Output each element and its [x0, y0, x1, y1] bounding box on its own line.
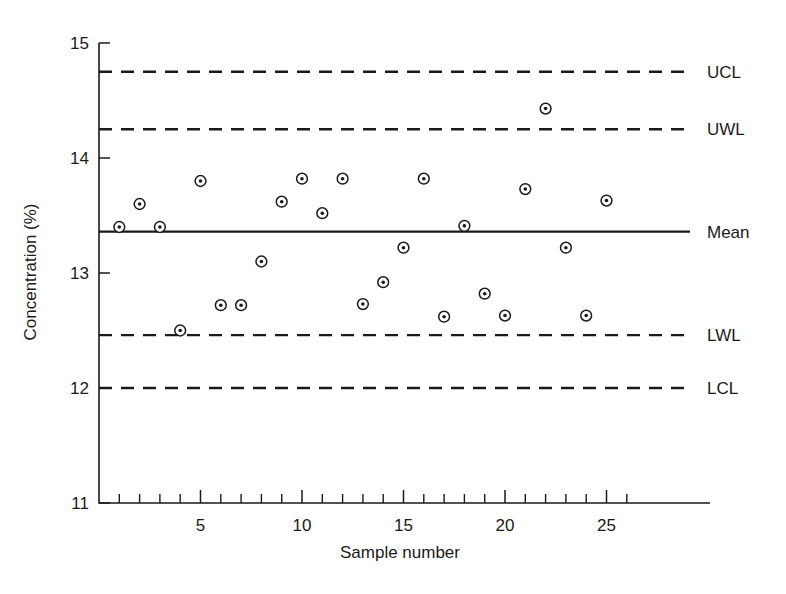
data-point	[236, 300, 247, 311]
control-chart: Concentration (%) Sample number 11121314…	[0, 0, 786, 594]
data-point	[297, 173, 308, 184]
data-point-center	[178, 329, 182, 333]
data-point-center	[503, 314, 507, 318]
x-axis-title: Sample number	[340, 543, 460, 562]
data-point	[114, 222, 125, 233]
reference-label-lwl: LWL	[707, 326, 741, 345]
data-point-center	[341, 177, 345, 181]
reference-label-lcl: LCL	[707, 379, 738, 398]
data-point-center	[138, 202, 142, 206]
data-point	[398, 242, 409, 253]
data-point-center	[584, 314, 588, 318]
data-point	[256, 256, 267, 267]
data-point-center	[524, 187, 528, 191]
y-axis-title: Concentration (%)	[21, 203, 40, 340]
data-point-center	[158, 225, 162, 229]
y-tick-label: 14	[70, 149, 89, 168]
data-point-center	[422, 177, 426, 181]
data-point-center	[402, 246, 406, 250]
data-point-center	[118, 225, 122, 229]
data-point-center	[260, 260, 264, 264]
y-tick-label: 11	[71, 494, 89, 513]
data-point	[520, 184, 531, 195]
data-point-center	[361, 302, 365, 306]
reference-label-uwl: UWL	[707, 120, 745, 139]
data-point	[601, 195, 612, 206]
data-point	[581, 310, 592, 321]
data-point-center	[381, 280, 385, 284]
control-chart-canvas: Concentration (%) Sample number 11121314…	[0, 0, 786, 594]
y-tick-label: 13	[70, 264, 89, 283]
y-tick-label: 15	[70, 34, 89, 53]
data-point-center	[199, 179, 203, 183]
x-tick-label: 10	[293, 516, 312, 535]
data-point	[561, 242, 572, 253]
data-point	[215, 300, 226, 311]
x-tick-label: 20	[496, 516, 515, 535]
x-tick-label: 15	[394, 516, 413, 535]
reference-lines	[99, 72, 690, 388]
data-point-center	[544, 107, 548, 111]
data-point	[175, 325, 186, 336]
y-tick-label: 12	[70, 379, 89, 398]
data-point	[459, 220, 470, 231]
data-point	[358, 299, 369, 310]
data-point-center	[300, 177, 304, 181]
data-point-center	[483, 292, 487, 296]
data-points	[114, 103, 612, 336]
reference-label-ucl: UCL	[707, 63, 741, 82]
data-point	[500, 310, 511, 321]
data-point	[317, 208, 328, 219]
tick-labels: 1112131415510152025	[70, 34, 616, 535]
data-point-center	[442, 315, 446, 319]
axis-frame	[99, 43, 710, 503]
data-point-center	[605, 199, 609, 203]
reference-label-mean: Mean	[707, 223, 750, 242]
data-point	[134, 199, 145, 210]
data-point	[195, 176, 206, 187]
reference-line-labels: UCLUWLMeanLWLLCL	[707, 63, 750, 398]
data-point	[418, 173, 429, 184]
data-point-center	[219, 303, 223, 307]
data-point-center	[280, 200, 284, 204]
x-tick-label: 5	[196, 516, 205, 535]
data-point	[337, 173, 348, 184]
data-point	[479, 288, 490, 299]
data-point	[439, 311, 450, 322]
data-point-center	[564, 246, 568, 250]
data-point-center	[463, 224, 467, 228]
data-point	[155, 222, 166, 233]
data-point	[540, 103, 551, 114]
data-point	[276, 196, 287, 207]
data-point-center	[321, 211, 325, 215]
axes	[99, 43, 710, 503]
x-tick-label: 25	[597, 516, 616, 535]
data-point-center	[239, 303, 243, 307]
data-point	[378, 277, 389, 288]
